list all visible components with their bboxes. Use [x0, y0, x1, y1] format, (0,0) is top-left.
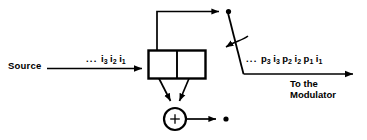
output-term-5: i1	[316, 53, 323, 64]
output-term-4: p1	[304, 53, 314, 64]
source-label: Source	[8, 60, 41, 71]
input-term-0: i3	[101, 53, 108, 64]
output-sequence-label: ...p3i3p2i2p1i1	[246, 53, 322, 64]
input-term-1: i2	[110, 53, 117, 64]
output-term-0: p3	[261, 53, 271, 64]
adder-tap-left	[159, 79, 171, 102]
switch-blade[interactable]	[228, 13, 244, 74]
output-term-3: i2	[295, 53, 302, 64]
switch-contact-lower	[223, 116, 228, 121]
upper-tap-line	[157, 12, 219, 51]
destination-line-1: To the	[290, 78, 336, 89]
destination-label: To the Modulator	[290, 78, 336, 100]
output-ellipsis: ...	[246, 53, 258, 64]
input-sequence-label: ...i3i2i1	[86, 53, 126, 64]
input-term-2: i1	[119, 53, 126, 64]
encoder-diagram: Source ...i3i2i1 ...p3i3p2i2p1i1 To the …	[0, 0, 367, 140]
output-term-1: i3	[273, 53, 280, 64]
input-ellipsis: ...	[86, 53, 98, 64]
destination-line-2: Modulator	[290, 89, 336, 100]
diagram-canvas	[0, 0, 367, 140]
adder-tap-right	[180, 79, 190, 102]
output-term-2: p2	[282, 53, 292, 64]
